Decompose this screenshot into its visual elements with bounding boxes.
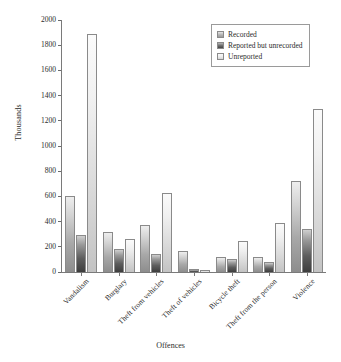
legend-item[interactable]: Recorded: [217, 29, 303, 40]
x-axis-tick-mark: [81, 273, 82, 276]
x-axis-tick-label-text: Vandalism: [61, 276, 91, 306]
x-axis-tick-label-text: Violence: [291, 276, 317, 302]
legend-item[interactable]: Reported but unrecorded: [217, 40, 303, 51]
x-axis-tick-mark: [269, 273, 270, 276]
legend-swatch-icon: [217, 53, 224, 60]
x-axis-tick-mark: [119, 273, 120, 276]
x-axis-tick-label-text: Bicycle theft: [207, 276, 242, 311]
chart-legend: RecordedReported but unrecordedUnreporte…: [211, 24, 310, 67]
legend-swatch-icon: [217, 31, 224, 38]
x-axis-tick-label-text: Burglary: [103, 276, 129, 302]
x-axis-tick-mark: [232, 273, 233, 276]
legend-item-label: Unreported: [228, 52, 262, 61]
legend-item-label: Reported but unrecorded: [228, 41, 303, 50]
x-axis-tick-label-text: Theft of vehicles: [160, 276, 204, 320]
x-axis-tick-label: Burglary: [123, 256, 149, 282]
legend-item[interactable]: Unreported: [217, 51, 303, 62]
x-axis-tick-mark: [156, 273, 157, 276]
legend-swatch-icon: [217, 42, 224, 49]
x-axis-tick-label: Bicycle theft: [236, 247, 271, 282]
x-axis-tick-mark: [307, 273, 308, 276]
bar-chart: Thousands 020040060080010001200140016001…: [0, 0, 341, 362]
x-axis-tick-mark: [194, 273, 195, 276]
x-axis-tick-label: Violence: [311, 256, 337, 282]
x-axis-title: Offences: [0, 341, 341, 350]
legend-item-label: Recorded: [228, 30, 257, 39]
x-axis-tick-label: Vandalism: [85, 252, 115, 282]
